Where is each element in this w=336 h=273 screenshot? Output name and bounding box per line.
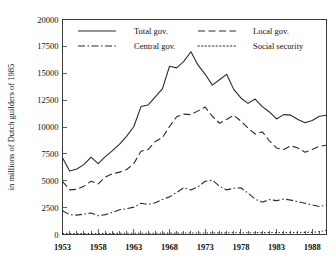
x-tick-label: 1953 bbox=[54, 242, 71, 252]
y-tick-label: 7500 bbox=[42, 149, 59, 159]
line-chart: 0250050007500100001250015000175002000019… bbox=[0, 0, 336, 273]
x-tick-label: 1978 bbox=[232, 242, 249, 252]
series-line-1 bbox=[63, 107, 327, 190]
x-tick-label: 1958 bbox=[90, 242, 107, 252]
legend-label: Total gov. bbox=[134, 26, 168, 36]
plot-frame bbox=[63, 20, 327, 235]
y-axis-title: in millions of Dutch guilders of 1985 bbox=[6, 64, 16, 191]
y-tick-label: 2500 bbox=[42, 203, 59, 213]
x-tick-label: 1968 bbox=[161, 242, 178, 252]
series-line-0 bbox=[63, 52, 327, 171]
axes bbox=[63, 20, 327, 235]
chart-legend: Total gov.Local gov.Central gov.Social s… bbox=[78, 26, 304, 51]
series-line-3 bbox=[63, 230, 327, 233]
y-tick-label: 12500 bbox=[37, 95, 58, 105]
y-tick-label: 10000 bbox=[37, 122, 58, 132]
x-tick-label: 1973 bbox=[197, 242, 214, 252]
x-tick-label: 1983 bbox=[268, 242, 285, 252]
axis-ticks bbox=[63, 20, 327, 235]
legend-label: Central gov. bbox=[134, 41, 175, 51]
chart-container: 0250050007500100001250015000175002000019… bbox=[0, 0, 336, 273]
y-tick-label: 5000 bbox=[42, 176, 59, 186]
legend-label: Local gov. bbox=[253, 26, 289, 36]
series-line-2 bbox=[63, 180, 327, 215]
y-tick-label: 17500 bbox=[37, 41, 58, 51]
x-tick-label: 1963 bbox=[125, 242, 142, 252]
data-series bbox=[63, 52, 327, 234]
y-tick-label: 0 bbox=[54, 230, 58, 240]
y-tick-label: 15000 bbox=[37, 68, 58, 78]
y-tick-label: 20000 bbox=[37, 15, 58, 25]
legend-label: Social security bbox=[253, 41, 304, 51]
x-tick-label: 1988 bbox=[304, 242, 321, 252]
